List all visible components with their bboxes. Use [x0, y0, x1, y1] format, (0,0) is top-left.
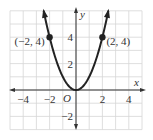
point-label: (2, 4)	[106, 35, 130, 48]
y-tick-label: −2	[61, 110, 73, 122]
point-marker	[46, 34, 52, 40]
x-axis-right-arrow-icon	[140, 88, 146, 92]
y-axis-label: y	[79, 8, 85, 20]
x-axis-label: x	[133, 76, 139, 88]
parabola-graph: (−2, 4)(2, 4) −4−22442−2 x y O	[0, 0, 153, 140]
point-label: (−2, 4)	[15, 35, 45, 48]
x-tick-label: 4	[126, 93, 132, 105]
y-tick-label: 4	[68, 31, 74, 43]
origin-label: O	[63, 92, 71, 104]
axes	[9, 7, 146, 130]
y-axis-down-arrow-icon	[74, 124, 78, 130]
y-tick-label: 2	[68, 58, 74, 70]
x-tick-label: −2	[44, 93, 56, 105]
y-axis-up-arrow-icon	[74, 7, 78, 13]
curve-arrow-icon	[42, 9, 48, 18]
point-marker	[99, 34, 105, 40]
x-tick-label: −4	[17, 93, 29, 105]
x-tick-label: 2	[100, 93, 106, 105]
curve-arrow-icon	[104, 9, 110, 18]
